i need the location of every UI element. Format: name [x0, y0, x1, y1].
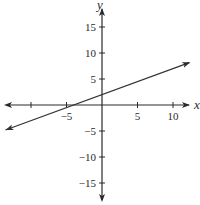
x-axis-label: x	[193, 97, 200, 112]
y-tick-label: −5	[84, 125, 96, 137]
y-tick-label: −10	[79, 151, 97, 163]
y-tick-label: 15	[85, 21, 97, 33]
coordinate-plane: −5510−15−10−551015xy	[0, 0, 200, 205]
y-tick-label: 5	[91, 73, 97, 85]
y-tick-label: −15	[79, 177, 97, 189]
x-tick-label: 5	[135, 110, 141, 122]
line-series	[5, 63, 189, 130]
x-tick-label: −5	[61, 110, 73, 122]
labels: −5510−15−10−551015xy	[61, 0, 200, 189]
y-axis-label: y	[95, 0, 103, 12]
y-tick-label: 10	[85, 47, 97, 59]
axes	[4, 9, 189, 202]
data-series	[5, 63, 189, 130]
x-tick-label: 10	[168, 110, 180, 122]
